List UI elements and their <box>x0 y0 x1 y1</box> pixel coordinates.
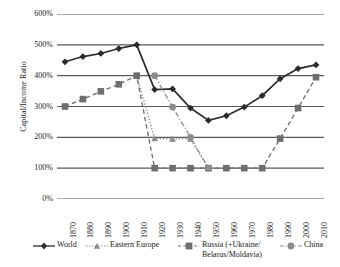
circle-marker-icon <box>280 241 302 251</box>
capital-income-ratio-chart: Capital/Income Ratio 0%100%200%300%400%5… <box>0 0 340 267</box>
data-point-diamond <box>151 86 158 93</box>
y-tick-label: 600% <box>19 10 53 18</box>
data-point-square <box>98 88 105 95</box>
square-marker-icon <box>178 241 200 251</box>
y-axis-tick-labels: 0%100%200%300%400%500%600% <box>17 0 53 213</box>
data-point-square <box>313 74 320 81</box>
legend-item-russia[interactable]: Russia (+Ukraine/ Belarus/Moldavia) <box>178 240 276 260</box>
chart-legend: World Eastern Europe Russia (+Ukraine/ B… <box>0 236 340 266</box>
data-point-diamond <box>62 58 69 65</box>
data-point-square <box>295 105 302 112</box>
legend-label-china: China <box>304 240 323 250</box>
data-point-square <box>223 165 230 172</box>
data-point-circle <box>187 134 194 141</box>
legend-label-eastern-europe: Eastern Europe <box>110 240 159 250</box>
series-china <box>151 72 212 171</box>
data-point-square <box>133 72 140 79</box>
data-point-diamond <box>295 65 302 72</box>
data-point-square <box>241 165 248 172</box>
data-point-diamond <box>223 112 230 119</box>
series-russia-ukraine-belarus-moldavia <box>62 72 320 171</box>
y-tick-label: 300% <box>19 103 53 111</box>
triangle-marker-icon <box>86 241 108 251</box>
data-point-square <box>62 103 69 110</box>
legend-label-world: World <box>57 240 77 250</box>
data-point-square <box>187 165 194 172</box>
y-tick-label: 0% <box>19 195 53 203</box>
diamond-marker-icon <box>33 241 55 251</box>
plot-area <box>57 14 324 199</box>
data-point-diamond <box>97 50 104 57</box>
data-point-circle <box>205 165 212 172</box>
data-point-circle <box>169 104 176 111</box>
data-point-square <box>259 165 266 172</box>
data-point-square <box>277 135 284 142</box>
data-point-square <box>151 165 158 172</box>
data-point-square <box>115 81 122 88</box>
y-tick-label: 500% <box>19 41 53 49</box>
y-tick-label: 100% <box>19 164 53 172</box>
y-tick-label: 400% <box>19 72 53 80</box>
data-point-square <box>80 96 87 103</box>
chart-canvas <box>57 14 324 199</box>
data-point-diamond <box>115 45 122 52</box>
data-point-circle <box>151 72 158 79</box>
legend-item-eastern-europe[interactable]: Eastern Europe <box>86 240 159 251</box>
data-point-diamond <box>313 61 320 68</box>
series-world <box>62 41 320 123</box>
legend-item-china[interactable]: China <box>280 240 323 251</box>
data-point-diamond <box>80 53 87 60</box>
legend-label-russia: Russia (+Ukraine/ Belarus/Moldavia) <box>202 240 276 260</box>
y-tick-label: 200% <box>19 133 53 141</box>
data-point-diamond <box>133 41 140 48</box>
x-axis-tick-labels: 1870188018901900191019201930194019501960… <box>57 201 324 231</box>
data-point-square <box>169 165 176 172</box>
legend-item-world[interactable]: World <box>33 240 77 251</box>
